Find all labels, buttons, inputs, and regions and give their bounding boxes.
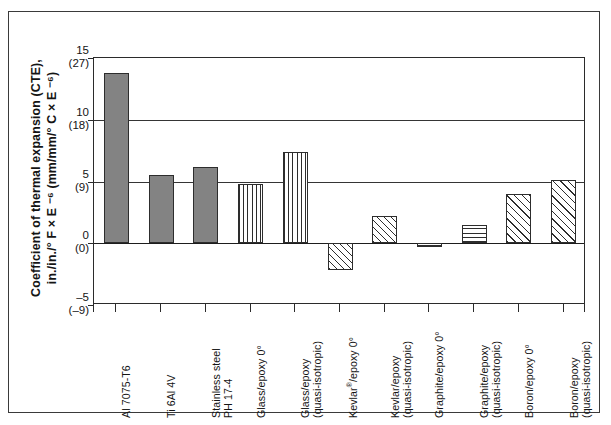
y-tick-value-imperial: 10 (45, 106, 89, 119)
bar (328, 243, 353, 270)
x-tick-label-line1: Boron/epoxy (568, 341, 580, 418)
x-tick-label-line1: Boron/epoxy 0° (523, 344, 535, 418)
bar (417, 243, 442, 247)
x-tick-mark (473, 304, 474, 312)
x-tick-mark (428, 304, 429, 312)
y-tick-value-imperial: 15 (45, 44, 89, 57)
x-tick-label-line2: PH 17-4 (222, 348, 234, 418)
x-tick-mark (294, 304, 295, 312)
y-tick-value-imperial: 5 (45, 168, 89, 181)
x-axis-origin-tick (93, 304, 94, 312)
y-tick-value-metric: (27) (45, 57, 89, 70)
x-tick-label: Stainless steelPH 17-4 (210, 348, 235, 418)
bar (283, 152, 308, 243)
x-tick-label: Boron/epoxy(quasi-isotropic) (568, 341, 593, 418)
bar (238, 184, 263, 243)
figure-frame: Coefficient of thermal expansion (CTE), … (8, 11, 600, 413)
x-tick-mark (250, 304, 251, 312)
x-axis-tick-marks (93, 304, 585, 312)
x-tick-mark (339, 304, 340, 312)
bar (551, 180, 576, 243)
x-tick-mark (160, 304, 161, 312)
y-tick-value-metric: (9) (45, 181, 89, 194)
x-tick-label-line1: Al 7075-T6 (120, 365, 132, 418)
x-tick-label-line1: Graphite/epoxy 0° (433, 331, 445, 418)
x-tick-label: Al 7075-T6 (120, 365, 132, 418)
x-tick-label-line2: (quasi-isotropic) (491, 341, 503, 418)
x-tick-label: Glass/epoxy 0° (255, 345, 267, 418)
x-tick-label-line1: Stainless steel (210, 348, 222, 418)
y-tick-label: 0(0) (45, 229, 89, 255)
x-tick-label-line1: Glass/epoxy (299, 341, 311, 418)
x-tick-label-line1: Glass/epoxy 0° (255, 345, 267, 418)
x-axis-tick-labels: Al 7075-T6Ti 6Al 4VStainless steelPH 17-… (93, 314, 585, 424)
y-axis-title-line1: Coefficient of thermal expansion (CTE), (28, 33, 44, 323)
x-tick-label-line1: Ti 6Al 4V (165, 375, 177, 419)
x-tick-label-line1: Kevlar/epoxy (389, 341, 401, 418)
y-tick-value-imperial: –5 (45, 291, 89, 304)
x-tick-label: Ti 6Al 4V (165, 375, 177, 419)
x-tick-mark (518, 304, 519, 312)
x-tick-mark (563, 304, 564, 312)
x-tick-label: Kevlar®/epoxy 0° (344, 337, 359, 418)
bar (372, 216, 397, 243)
y-tick-label: –5(–9) (45, 291, 89, 317)
x-axis-end-tick (584, 304, 585, 312)
bar (104, 73, 129, 243)
bar (462, 225, 487, 244)
x-tick-label-line2: (quasi-isotropic) (580, 341, 592, 418)
x-tick-mark (115, 304, 116, 312)
y-tick-label: 5(9) (45, 168, 89, 194)
x-tick-label: Graphite/epoxy 0° (433, 331, 445, 418)
y-tick-value-metric: (18) (45, 119, 89, 132)
x-tick-label-line1: Kevlar®/epoxy 0° (344, 337, 359, 418)
bar-series (94, 58, 584, 303)
y-tick-label: 15(27) (45, 44, 89, 70)
y-tick-value-imperial: 0 (45, 229, 89, 242)
plot-area (93, 57, 585, 304)
bar (193, 167, 218, 244)
bar (506, 194, 531, 243)
x-tick-label: Glass/epoxy(quasi-isotropic) (299, 341, 324, 418)
bar (149, 175, 174, 243)
x-tick-label-line2: (quasi-isotropic) (401, 341, 413, 418)
y-tick-label: 10(18) (45, 106, 89, 132)
x-tick-label: Graphite/epoxy(quasi-isotropic) (478, 341, 503, 418)
x-tick-label-line1: Graphite/epoxy (478, 341, 490, 418)
y-tick-value-metric: (–9) (45, 304, 89, 317)
y-axis-tick-labels: 15(27)10(18)5(9)0(0)–5(–9) (45, 57, 89, 304)
x-tick-label: Boron/epoxy 0° (523, 344, 535, 418)
x-tick-mark (205, 304, 206, 312)
y-tick-value-metric: (0) (45, 242, 89, 255)
x-tick-mark (384, 304, 385, 312)
x-tick-label: Kevlar/epoxy(quasi-isotropic) (389, 341, 414, 418)
x-tick-label-line2: (quasi-isotropic) (312, 341, 324, 418)
